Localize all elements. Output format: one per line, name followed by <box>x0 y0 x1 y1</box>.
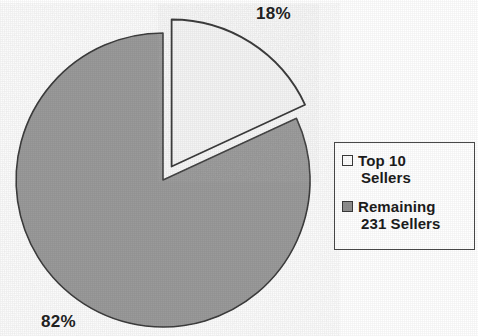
legend-item-remaining-sellers: Remaining 231 Sellers <box>342 198 474 232</box>
chart-legend: Top 10 Sellers Remaining 231 Sellers <box>334 142 475 250</box>
pie-chart: 18% 82% Top 10 Sellers Remaining 231 Sel… <box>0 0 478 336</box>
legend-label-line2: 231 Sellers <box>358 215 441 232</box>
legend-label-line2: Sellers <box>358 169 411 186</box>
legend-label-line1: Top 10 <box>358 152 406 169</box>
legend-label-top-10-sellers: Top 10 Sellers <box>358 152 411 186</box>
legend-label-line1: Remaining <box>358 198 436 215</box>
data-label-bottom-slice: 82% <box>41 313 76 330</box>
data-label-top-slice: 18% <box>256 5 291 22</box>
legend-swatch-icon-top-10-sellers <box>342 155 353 166</box>
legend-swatch-icon-remaining-sellers <box>342 201 353 212</box>
legend-label-remaining-sellers: Remaining 231 Sellers <box>358 198 441 232</box>
legend-item-top-10-sellers: Top 10 Sellers <box>342 152 474 186</box>
